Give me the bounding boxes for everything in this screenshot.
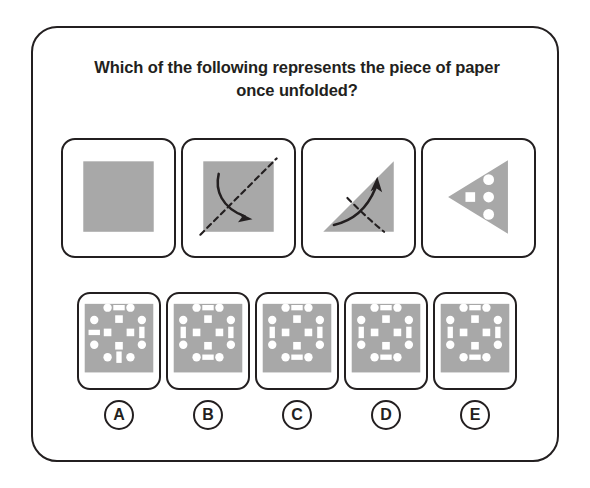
punch-circle [494, 341, 502, 349]
punch-rect [216, 329, 224, 337]
answer-letter-b[interactable]: B [166, 398, 250, 432]
punch-circle [192, 303, 200, 311]
punch-circle-top [483, 174, 494, 185]
punch-rect [382, 342, 390, 350]
punch-rect [282, 329, 290, 337]
punch-rect [270, 327, 275, 338]
punch-rect [139, 327, 144, 338]
letter-circle-b: B [193, 400, 223, 430]
punch-circle [304, 303, 312, 311]
punch-circle [126, 353, 134, 361]
answer-letter-c[interactable]: C [255, 398, 339, 432]
punch-circle [357, 341, 365, 349]
punch-circle [90, 341, 98, 349]
punch-circle [268, 316, 276, 324]
punch-rect [471, 342, 479, 350]
option-e-pattern [435, 294, 515, 388]
answer-letter-a[interactable]: A [77, 398, 161, 432]
punch-rect [469, 305, 480, 310]
punch-circle [304, 353, 312, 361]
punch-rect [202, 305, 213, 310]
unfolded-square-diagram [63, 140, 174, 256]
punch-rect [293, 315, 301, 323]
answer-letters-row: A B C D E [77, 398, 517, 438]
punch-rect [228, 327, 233, 338]
punch-rect [406, 327, 411, 338]
punch-rect [460, 329, 468, 337]
punch-circle [126, 303, 134, 311]
letter-circle-c: C [282, 400, 312, 430]
letter-circle-a: A [104, 400, 134, 430]
punch-circle-bottom [483, 209, 494, 220]
punch-circle [103, 303, 111, 311]
punch-rect [89, 330, 100, 335]
fold-sequence-row [61, 138, 535, 258]
punch-rect [380, 355, 391, 360]
punch-rect [495, 327, 500, 338]
punch-circle [393, 303, 401, 311]
punch-rect [291, 355, 302, 360]
punch-circle [281, 353, 289, 361]
answer-letter-e[interactable]: E [433, 398, 517, 432]
option-d-pattern [346, 294, 426, 388]
punch-rect [293, 342, 301, 350]
punch-circle [370, 303, 378, 311]
punch-rect [380, 305, 391, 310]
answer-option-a[interactable] [77, 292, 161, 390]
punch-rect [448, 327, 453, 338]
answer-option-c[interactable] [255, 292, 339, 390]
triangle-with-fold-diagram [303, 140, 414, 256]
fold-step-3-panel [301, 138, 416, 258]
punch-circle-middle [483, 192, 494, 203]
punch-circle [281, 303, 289, 311]
punch-circle [227, 316, 235, 324]
punch-rect [394, 329, 402, 337]
punch-circle [482, 303, 490, 311]
punch-circle [446, 341, 454, 349]
punch-circle [268, 341, 276, 349]
letter-circle-e: E [460, 400, 490, 430]
question-text: Which of the following represents the pi… [73, 56, 521, 103]
option-c-pattern [257, 294, 337, 388]
punch-rect [317, 327, 322, 338]
question-card: Which of the following represents the pi… [31, 26, 559, 462]
fold-step-2-panel [181, 138, 296, 258]
punch-rect [115, 342, 123, 350]
punch-rect [291, 305, 302, 310]
punch-circle [357, 316, 365, 324]
punch-rect [116, 351, 121, 362]
punch-circle [215, 303, 223, 311]
punch-rect [469, 355, 480, 360]
answer-option-e[interactable] [433, 292, 517, 390]
option-a-pattern [79, 294, 159, 388]
punch-rect [193, 329, 201, 337]
punched-triangle-diagram [423, 140, 534, 256]
punch-circle [179, 341, 187, 349]
punch-circle [90, 316, 98, 324]
punch-rect [202, 355, 213, 360]
punch-circle [215, 353, 223, 361]
option-b-pattern [168, 294, 248, 388]
punch-rect [359, 327, 364, 338]
answer-letter-d[interactable]: D [344, 398, 428, 432]
fold-step-4-panel [421, 138, 536, 258]
punch-circle [393, 353, 401, 361]
punch-rect [483, 329, 491, 337]
punch-circle [405, 316, 413, 324]
punch-circle [459, 303, 467, 311]
punch-rect [305, 329, 313, 337]
punch-circle [316, 316, 324, 324]
punch-circle [138, 316, 146, 324]
punch-circle [227, 341, 235, 349]
punch-rect [204, 342, 212, 350]
punch-rect [204, 315, 212, 323]
letter-circle-d: D [371, 400, 401, 430]
punch-rect [371, 329, 379, 337]
answer-options-row [77, 292, 517, 390]
punch-circle [494, 316, 502, 324]
fold-step-1-panel [61, 138, 176, 258]
answer-option-d[interactable] [344, 292, 428, 390]
punch-rect [382, 315, 390, 323]
punch-circle [103, 353, 111, 361]
answer-option-b[interactable] [166, 292, 250, 390]
